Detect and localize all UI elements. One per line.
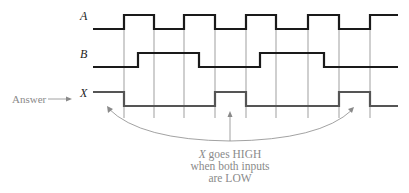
signal-label-x: X — [79, 86, 88, 100]
timing-diagram: ABX Answer X goes HIGH when both inputs … — [0, 0, 409, 193]
arrowheads-icon — [107, 106, 354, 117]
waveform-b — [93, 53, 398, 67]
answer-label: Answer — [12, 93, 47, 105]
note-line-3: are LOW — [208, 172, 251, 184]
signal-labels: ABX — [79, 9, 88, 100]
timing-diagram-canvas: ABX Answer X goes HIGH when both inputs … — [0, 0, 409, 193]
waveform-a — [93, 15, 398, 29]
signal-label-a: A — [79, 9, 88, 23]
signal-label-b: B — [80, 47, 88, 61]
waveform-x — [93, 92, 398, 106]
waveforms — [93, 15, 398, 106]
answer-arrow-icon — [48, 97, 72, 102]
